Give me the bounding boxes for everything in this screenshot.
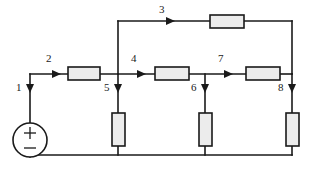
branch-label-8: 8 xyxy=(278,82,284,93)
resistor-r5 xyxy=(112,113,125,146)
branch-label-2: 2 xyxy=(46,53,52,64)
branch-label-5: 5 xyxy=(104,82,110,93)
resistor-r8 xyxy=(286,113,299,146)
branch-label-7: 7 xyxy=(218,53,224,64)
current-arrow-8-icon xyxy=(288,84,296,93)
resistor-r3 xyxy=(210,15,244,28)
current-arrow-5-icon xyxy=(114,84,122,93)
branch-label-1: 1 xyxy=(16,82,22,93)
branch-label-3: 3 xyxy=(159,4,165,15)
current-arrow-3-icon xyxy=(166,17,175,25)
current-arrow-6-icon xyxy=(201,84,209,93)
resistor-r6 xyxy=(199,113,212,146)
current-arrow-7-icon xyxy=(224,70,233,78)
circuit-schematic xyxy=(0,0,312,172)
resistor-r4 xyxy=(155,67,189,80)
resistor-r2 xyxy=(68,67,100,80)
circuit-diagram-canvas: 1 2 3 4 5 6 7 8 xyxy=(0,0,312,172)
current-arrow-4-icon xyxy=(137,70,146,78)
current-arrow-2-icon xyxy=(52,70,61,78)
branch-label-6: 6 xyxy=(191,82,197,93)
current-arrow-1-icon xyxy=(26,84,34,93)
resistor-r7 xyxy=(246,67,280,80)
branch-label-4: 4 xyxy=(131,53,137,64)
